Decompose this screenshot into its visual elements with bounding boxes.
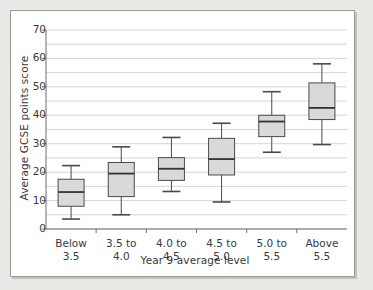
y-axis-title: Average GCSE points score [18, 38, 30, 218]
x-axis-tick-label-line: Above [287, 237, 357, 250]
figure: 010203040506070 Below3.53.5 to4.04.0 to4… [0, 0, 373, 290]
y-axis-tick-label: 70 [20, 23, 46, 35]
x-axis-title: Year 9 average level [45, 254, 345, 266]
x-axis-tick-labels: Below3.53.5 to4.04.0 to4.54.5 to5.05.0 t… [0, 232, 373, 272]
